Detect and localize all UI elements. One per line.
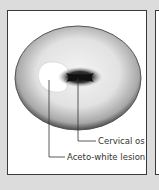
- cervical-os-label: Cervical os: [98, 137, 145, 146]
- lesion-label: Aceto-white lesion: [67, 153, 145, 162]
